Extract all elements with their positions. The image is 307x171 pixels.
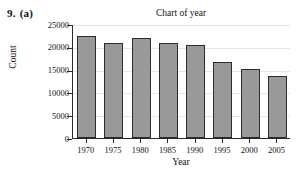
y-tick-mark xyxy=(67,139,72,140)
y-tick-label: 20000 xyxy=(9,43,69,52)
x-axis-label: Year xyxy=(72,157,290,167)
y-tick-label: 15000 xyxy=(9,66,69,75)
x-tick-mark xyxy=(195,139,196,143)
x-tick-mark xyxy=(113,139,114,143)
bar xyxy=(241,69,260,138)
bar xyxy=(132,38,151,138)
bar xyxy=(213,62,232,138)
bar xyxy=(104,43,123,138)
problem-number: 9. xyxy=(7,7,16,19)
gridline xyxy=(73,25,290,26)
chart-title: Chart of year xyxy=(70,8,292,18)
y-tick-label: 0 xyxy=(9,135,69,144)
y-tick-label: 5000 xyxy=(9,112,69,121)
x-tick-mark xyxy=(167,139,168,143)
problem-label: 9.(a) xyxy=(7,7,33,19)
x-tick-mark xyxy=(249,139,250,143)
y-axis-label: Count xyxy=(8,22,18,92)
figure-container: 9.(a) Chart of year Count 05000100001500… xyxy=(0,0,307,171)
x-tick-mark xyxy=(276,139,277,143)
problem-part: (a) xyxy=(20,7,33,19)
plot-area xyxy=(72,25,290,139)
y-tick-label: 25000 xyxy=(9,21,69,30)
y-tick-label: 10000 xyxy=(9,89,69,98)
x-tick-label: 2005 xyxy=(256,145,296,155)
bar xyxy=(159,43,178,138)
x-tick-mark xyxy=(86,139,87,143)
bar xyxy=(186,45,205,138)
bar xyxy=(268,76,287,138)
x-tick-mark xyxy=(222,139,223,143)
bar xyxy=(77,36,96,138)
x-tick-mark xyxy=(140,139,141,143)
